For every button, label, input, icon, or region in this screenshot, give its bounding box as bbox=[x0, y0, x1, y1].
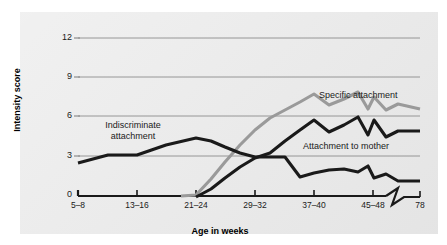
x-tick-label-29-32: 29–32 bbox=[232, 200, 278, 210]
y-axis-title: Intensity score bbox=[12, 60, 22, 140]
y-tick-label-6: 6 bbox=[54, 110, 72, 120]
x-tick-label-21-24: 21–24 bbox=[173, 200, 219, 210]
x-tick-label-45-48: 45–48 bbox=[350, 200, 396, 210]
y-tick-label-9: 9 bbox=[54, 71, 72, 81]
x-tick-label-5-8: 5–8 bbox=[55, 200, 101, 210]
series-label-specific-attachment: Specific attachment bbox=[319, 90, 398, 101]
y-tick-marks bbox=[74, 38, 80, 156]
y-tick-label-0: 0 bbox=[54, 189, 72, 199]
series-label-attachment-to-mother: Attachment to mother bbox=[303, 141, 389, 152]
x-axis-title: Age in weeks bbox=[150, 226, 290, 236]
y-tick-label-12: 12 bbox=[54, 32, 72, 42]
x-tick-label-13-16: 13–16 bbox=[114, 200, 160, 210]
x-tick-label-37-40: 37–40 bbox=[291, 200, 337, 210]
series-label-indiscriminate-line1: Indiscriminate bbox=[88, 120, 178, 131]
series-label-indiscriminate-attachment: Indiscriminate attachment bbox=[88, 120, 178, 142]
x-tick-label-78: 78 bbox=[397, 200, 443, 210]
y-tick-label-3: 3 bbox=[54, 150, 72, 160]
chart-figure: 12 9 6 3 0 5–8 13–16 21–24 29–32 37–40 4… bbox=[0, 0, 447, 245]
series-label-indiscriminate-line2: attachment bbox=[88, 131, 178, 142]
